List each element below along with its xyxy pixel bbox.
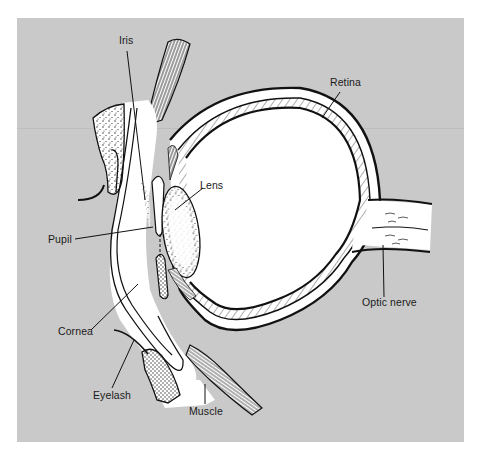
- label-pupil: Pupil: [48, 233, 72, 245]
- label-lens: Lens: [200, 179, 223, 191]
- label-optic-nerve: Optic nerve: [362, 296, 417, 308]
- optic-nerve-leader: [383, 245, 384, 297]
- label-iris: Iris: [119, 34, 133, 46]
- eyeball-wall: [170, 88, 380, 330]
- eyelash-leader: [112, 340, 134, 388]
- upper-eyelid: [78, 104, 124, 200]
- label-muscle: Muscle: [189, 405, 223, 417]
- label-retina: Retina: [330, 76, 361, 88]
- label-cornea: Cornea: [58, 325, 93, 337]
- eye-diagram: [0, 0, 487, 462]
- label-eyelash: Eyelash: [93, 389, 131, 401]
